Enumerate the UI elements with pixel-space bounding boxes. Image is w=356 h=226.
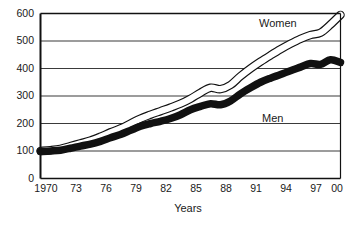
series-label-men: Men (262, 112, 283, 124)
series-paths (41, 15, 341, 152)
series-outline-women (41, 15, 341, 151)
series-label-women: Women (259, 17, 297, 29)
x-axis-tick-00: 00 (320, 182, 354, 194)
series-path-women (41, 15, 341, 151)
x-axis-title: Years (148, 202, 228, 214)
chart-container: 600 500 400 300 200 100 0 1970 73 76 79 … (0, 0, 356, 226)
